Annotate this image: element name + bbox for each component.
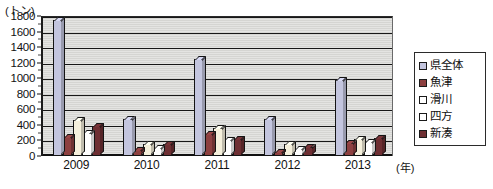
legend-swatch-icon (419, 130, 427, 138)
bar-group (184, 17, 254, 156)
legend-label: 魚津 (430, 77, 452, 89)
bar-side-face (382, 135, 386, 155)
bar (194, 59, 203, 156)
legend-swatch-icon (419, 96, 427, 104)
chart-legend: 県全体魚津滑川四方新湊 (414, 52, 486, 146)
y-tick-label: 200 (17, 134, 35, 146)
legend-swatch-icon (419, 113, 427, 121)
legend-item[interactable]: 滑川 (419, 91, 482, 108)
bar-side-face (272, 116, 276, 155)
y-tick-label: 1200 (11, 57, 35, 69)
bar-side-face (100, 123, 104, 155)
y-tick-label: 400 (17, 119, 35, 131)
y-tick-label: 1600 (11, 26, 35, 38)
bar-side-face (81, 117, 85, 155)
bar-side-face (212, 131, 216, 155)
legend-label: 滑川 (430, 94, 452, 106)
bar-side-face (132, 116, 136, 155)
x-tick-label: 2009 (63, 158, 89, 172)
bar-group (113, 17, 183, 156)
bar-group (325, 17, 395, 156)
plot-area (41, 16, 393, 156)
legend-swatch-icon (419, 79, 427, 87)
bar (53, 20, 62, 156)
bar-chart: (トン) 020040060080010001200140016001800 2… (0, 0, 493, 189)
y-tick-label: 1000 (11, 72, 35, 84)
x-axis: 20092010201120122013 (41, 158, 393, 178)
y-tick-label: 1400 (11, 41, 35, 53)
y-axis: 020040060080010001200140016001800 (0, 16, 41, 156)
legend-label: 四方 (430, 111, 452, 123)
bar-side-face (171, 141, 175, 155)
bar (264, 119, 273, 156)
bar-side-face (91, 130, 95, 155)
y-tick-label: 1800 (11, 10, 35, 22)
legend-item[interactable]: 県全体 (419, 57, 482, 74)
x-tick-label: 2011 (204, 158, 229, 172)
bar-side-face (202, 56, 206, 155)
bar (335, 80, 344, 156)
bar (274, 152, 283, 156)
y-tick-label: 800 (17, 88, 35, 100)
bars-layer (43, 17, 392, 156)
bar-group (254, 17, 324, 156)
legend-item[interactable]: 四方 (419, 108, 482, 125)
x-tick-label: 2013 (345, 158, 371, 172)
y-tick-label: 600 (17, 103, 35, 115)
bar-side-face (241, 136, 245, 155)
legend-label: 新湊 (430, 128, 452, 140)
scan-edge (0, 187, 493, 189)
bar-side-face (343, 77, 347, 155)
legend-item[interactable]: 魚津 (419, 74, 482, 91)
legend-label: 県全体 (430, 60, 462, 72)
x-tick-label: 2010 (134, 158, 160, 172)
legend-item[interactable]: 新湊 (419, 125, 482, 142)
bar (123, 119, 132, 156)
bar-side-face (61, 17, 65, 155)
x-axis-unit-label: (年) (396, 159, 414, 175)
bar-side-face (222, 125, 226, 155)
bar-group (43, 17, 113, 156)
x-tick-label: 2012 (274, 158, 300, 172)
legend-swatch-icon (419, 62, 427, 70)
y-tick-label: 0 (29, 150, 35, 162)
